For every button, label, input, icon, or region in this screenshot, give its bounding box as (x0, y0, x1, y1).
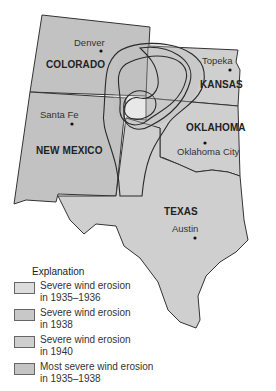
legend-item: Most severe wind erosionin 1935–1938 (14, 361, 274, 386)
legend-item: Severe wind erosionin 1935–1936 (14, 280, 274, 305)
state-label-kansas: KANSAS (200, 80, 243, 90)
legend-label: in 1935–1938 (40, 373, 101, 384)
legend-label: Severe wind erosion (40, 334, 131, 345)
city-dot-denver (99, 49, 102, 52)
legend-swatch (14, 363, 35, 375)
city-label-austin: Austin (172, 224, 198, 234)
legend-label: in 1940 (40, 346, 73, 357)
city-dot-santa-fe (70, 122, 73, 125)
legend-swatch (14, 309, 35, 321)
city-label-denver: Denver (74, 38, 105, 48)
legend: Explanation Severe wind erosionin 1935–1… (14, 266, 274, 388)
legend-item: Severe wind erosionin 1940 (14, 334, 274, 359)
legend-label: in 1938 (40, 319, 73, 330)
city-dot-oklahoma-city (203, 141, 206, 144)
legend-label: Severe wind erosion (40, 280, 131, 291)
city-label-topeka: Topeka (202, 56, 233, 66)
legend-title: Explanation (32, 266, 274, 277)
city-label-santa-fe: Santa Fe (40, 110, 79, 120)
city-label-oklahoma-city: Oklahoma City (177, 147, 239, 157)
legend-label: Severe wind erosion (40, 307, 131, 318)
state-label-new-mexico: NEW MEXICO (36, 146, 103, 156)
city-dot-austin (193, 236, 196, 239)
state-label-colorado: COLORADO (46, 60, 105, 70)
legend-swatch (14, 282, 35, 294)
state-label-texas: TEXAS (164, 207, 198, 217)
legend-label: in 1935–1936 (40, 292, 101, 303)
city-dot-topeka (228, 68, 231, 71)
legend-item: Severe wind erosionin 1938 (14, 307, 274, 332)
state-label-oklahoma: OKLAHOMA (186, 123, 246, 133)
legend-swatch (14, 336, 35, 348)
legend-label: Most severe wind erosion (40, 361, 153, 372)
